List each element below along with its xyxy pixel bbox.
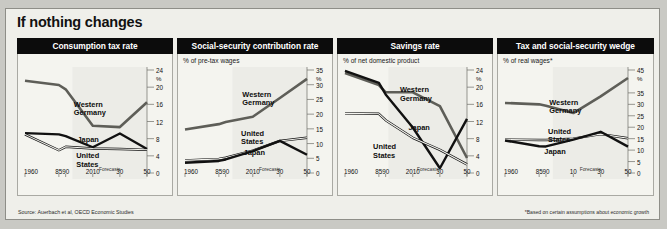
forecast-annotation: Forecasts (259, 167, 280, 172)
x-axis-tick-label: 90 (382, 168, 389, 175)
forecast-annotation: Forecasts (99, 167, 120, 172)
x-axis-tick-label: 1960 (504, 168, 518, 175)
plot-area (183, 66, 329, 179)
forecast-annotation: Forecasts (417, 167, 438, 172)
chart-panel-savings-rate: Savings rate % of net domestic product 1… (337, 38, 493, 196)
y-axis-tick-label: 5 (316, 155, 320, 162)
y-axis-tick-label: 0 (316, 170, 320, 177)
y-axis-unit-label: % (316, 75, 321, 82)
y-axis-tick-label: 15 (637, 135, 644, 142)
series-label-wg: WesternGermany (549, 99, 581, 116)
y-axis-unit-label: % (476, 75, 481, 82)
y-axis-tick-label: 0 (637, 170, 641, 177)
y-axis-tick-label: 45 (637, 67, 644, 74)
panel-subtitle: % of real wages* (503, 57, 552, 64)
forecast-annotation: Forecasts (580, 167, 601, 172)
chart-panel-social-security-contribution-rate: Social-security contribution rate % of p… (177, 38, 333, 196)
y-axis-unit-label: % (156, 75, 161, 82)
page-title: If nothing changes (17, 14, 142, 30)
y-axis-tick-label: 8 (476, 135, 480, 142)
y-axis-tick-label: 20 (637, 124, 644, 131)
y-axis-tick-label: 25 (316, 96, 323, 103)
y-axis-tick-label: 8 (156, 135, 160, 142)
chart-panel-consumption-tax-rate: Consumption tax rate 1960859020103050 04… (17, 38, 173, 196)
panel-subtitle: % of net domestic product (343, 57, 419, 64)
x-axis-tick-label: 1960 (24, 168, 38, 175)
panel-title: Social-security contribution rate (192, 41, 319, 51)
y-axis-unit-label: % (637, 75, 642, 82)
x-axis-tick-label: 50 (143, 168, 150, 175)
chart-panel-tax-and-social-security-wedge: Tax and social-security wedge % of real … (497, 38, 654, 196)
x-axis-tick-label: 1960 (184, 168, 198, 175)
x-axis-tick-label: 50 (303, 168, 310, 175)
y-axis-tick-label: 35 (637, 89, 644, 96)
y-axis-tick-label: 0 (476, 170, 480, 177)
y-axis-tick-label: 20 (316, 111, 323, 118)
y-axis-tick-label: 10 (637, 147, 644, 154)
y-axis-tick-label: 20 (476, 84, 483, 91)
x-axis-tick-label: 90 (542, 168, 549, 175)
y-axis-tick-label: 4 (156, 152, 160, 159)
footnote: *Based on certain assumptions about econ… (525, 209, 649, 215)
x-axis-tick-label: 1960 (344, 168, 358, 175)
series-label-jp: Japan (408, 124, 429, 132)
series-label-wg: WesternGermany (400, 86, 432, 103)
source-note: Source: Auerbach et al, OECD Economic St… (18, 209, 134, 215)
series-label-wg: WesternGermany (74, 101, 106, 118)
y-axis-tick-label: 30 (316, 81, 323, 88)
panel-header: Tax and social-security wedge (497, 38, 654, 54)
y-axis-tick-label: 24 (476, 67, 483, 74)
y-axis-tick-label: 16 (476, 101, 483, 108)
series-label-us: UnitedStates (241, 130, 264, 147)
x-axis-tick-label: 90 (62, 168, 69, 175)
y-axis-tick-label: 25 (637, 112, 644, 119)
y-axis-tick-label: 15 (316, 125, 323, 132)
series-label-jp: Japan (544, 148, 565, 156)
y-axis-tick-label: 12 (156, 118, 163, 125)
panel-header: Social-security contribution rate (177, 38, 333, 54)
y-axis-tick-label: 24 (156, 67, 163, 74)
panel-subtitle: % of pre-tax wages (183, 57, 239, 64)
figure-container: If nothing changes Consumption tax rate … (5, 8, 660, 220)
x-axis-tick-label: 50 (463, 168, 470, 175)
y-axis-tick-label: 10 (316, 140, 323, 147)
x-axis-tick-label: 90 (222, 168, 229, 175)
y-axis-tick-label: 35 (316, 67, 323, 74)
panel-title: Tax and social-security wedge (516, 41, 635, 51)
x-axis-tick-label: 10 (570, 168, 577, 175)
series-label-us: UnitedStates (548, 128, 571, 145)
series-label-us: UnitedStates (76, 152, 99, 169)
series-label-jp: Japan (244, 149, 265, 157)
y-axis-tick-label: 0 (156, 170, 160, 177)
x-axis-tick-label: 50 (624, 168, 631, 175)
panel-header: Consumption tax rate (17, 38, 173, 54)
series-label-jp: Japan (77, 136, 98, 144)
y-axis-tick-label: 20 (156, 84, 163, 91)
series-label-wg: WesternGermany (242, 91, 274, 108)
y-axis-tick-label: 5 (637, 158, 641, 165)
x-axis: 1960859020103050 (183, 166, 329, 179)
panel-title: Savings rate (390, 41, 439, 51)
panel-title: Consumption tax rate (52, 41, 137, 51)
y-axis-tick-label: 16 (156, 101, 163, 108)
series-label-us: UnitedStates (373, 143, 396, 160)
x-axis: 19608590103050 (503, 166, 650, 179)
y-axis-tick-label: 4 (476, 152, 480, 159)
plot-area (503, 66, 650, 179)
panel-header: Savings rate (337, 38, 493, 54)
y-axis-tick-label: 12 (476, 118, 483, 125)
y-axis-tick-label: 30 (637, 101, 644, 108)
x-axis-tick-label: 2010 (246, 168, 260, 175)
